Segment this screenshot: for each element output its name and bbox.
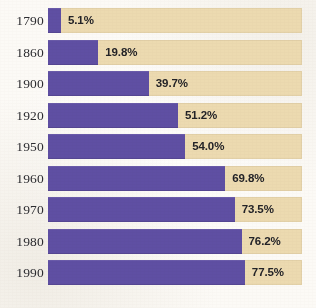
bar-rows-container: 17905.1%186019.8%190039.7%192051.2%19505…	[0, 0, 316, 308]
bar-value-label: 76.2%	[249, 229, 281, 254]
bar-track: 54.0%	[48, 134, 302, 159]
bar-fill	[48, 103, 178, 128]
bar-chart: 17905.1%186019.8%190039.7%192051.2%19505…	[0, 0, 316, 308]
bar-value-label: 77.5%	[252, 260, 284, 285]
bar-row: 17905.1%	[0, 8, 316, 33]
bar-fill	[48, 229, 242, 254]
bar-value-label: 51.2%	[185, 103, 217, 128]
bar-track: 39.7%	[48, 71, 302, 96]
bar-value-label: 39.7%	[156, 71, 188, 96]
bar-track: 77.5%	[48, 260, 302, 285]
bar-fill	[48, 134, 185, 159]
bar-row: 186019.8%	[0, 40, 316, 65]
bar-track: 76.2%	[48, 229, 302, 254]
bar-fill	[48, 71, 149, 96]
bar-year-label: 1950	[0, 134, 44, 159]
bar-fill	[48, 260, 245, 285]
bar-row: 199077.5%	[0, 260, 316, 285]
bar-row: 190039.7%	[0, 71, 316, 96]
bar-year-label: 1900	[0, 71, 44, 96]
bar-track: 51.2%	[48, 103, 302, 128]
bar-fill	[48, 40, 98, 65]
bar-value-label: 69.8%	[232, 166, 264, 191]
bar-value-label: 19.8%	[105, 40, 137, 65]
bar-fill	[48, 166, 225, 191]
bar-year-label: 1960	[0, 166, 44, 191]
bar-track: 73.5%	[48, 197, 302, 222]
bar-row: 195054.0%	[0, 134, 316, 159]
bar-track: 19.8%	[48, 40, 302, 65]
bar-track: 69.8%	[48, 166, 302, 191]
bar-row: 198076.2%	[0, 229, 316, 254]
bar-value-label: 54.0%	[192, 134, 224, 159]
bar-row: 197073.5%	[0, 197, 316, 222]
bar-value-label: 5.1%	[68, 8, 94, 33]
bar-year-label: 1790	[0, 8, 44, 33]
bar-value-label: 73.5%	[242, 197, 274, 222]
bar-row: 196069.8%	[0, 166, 316, 191]
bar-year-label: 1980	[0, 229, 44, 254]
bar-fill	[48, 8, 61, 33]
bar-track: 5.1%	[48, 8, 302, 33]
bar-year-label: 1970	[0, 197, 44, 222]
bar-row: 192051.2%	[0, 103, 316, 128]
bar-year-label: 1860	[0, 40, 44, 65]
bar-year-label: 1920	[0, 103, 44, 128]
bar-fill	[48, 197, 235, 222]
bar-year-label: 1990	[0, 260, 44, 285]
